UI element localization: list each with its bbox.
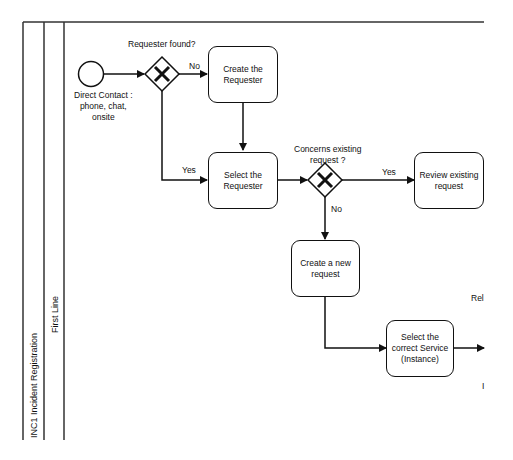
task-select-requester[interactable]: Select the Requester	[208, 152, 278, 209]
task-review-existing-request[interactable]: Review existing request	[414, 152, 484, 209]
flow-label-no: No	[189, 61, 200, 72]
start-event-circle	[79, 62, 104, 87]
gateway-label-requester-found: Requester found?	[128, 39, 196, 50]
task-select-service[interactable]: Select the correct Service (Instance)	[386, 320, 454, 377]
lane-label: First Line	[50, 296, 60, 333]
gateway-requester-found	[145, 57, 179, 91]
gateway-label-concerns-existing: Concerns existing request ?	[294, 144, 362, 166]
cutoff-text-i: I	[482, 381, 484, 392]
pool-label: INC1 Incident Registration	[29, 333, 39, 438]
cutoff-text-rel: Rel	[471, 293, 484, 304]
flow-label-yes: Yes	[182, 165, 196, 176]
start-event-label: Direct Contact : phone, chat, onsite	[74, 90, 133, 123]
task-create-new-request[interactable]: Create a new request	[291, 240, 360, 297]
gateway-concerns-existing	[308, 163, 342, 197]
flow-label-yes-existing: Yes	[382, 167, 396, 178]
task-create-requester[interactable]: Create the Requester	[208, 46, 278, 103]
flow-label-no-new: No	[331, 204, 342, 215]
